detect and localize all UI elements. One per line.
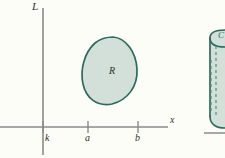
figure-svg — [0, 0, 225, 158]
cylinder-figure-group — [204, 30, 225, 133]
y-axis-label: L — [32, 0, 38, 12]
region-label-r: R — [109, 65, 115, 76]
tick-label-a: a — [85, 132, 90, 143]
figure-canvas: L x k a b R C — [0, 0, 225, 158]
tick-label-k: k — [45, 132, 49, 143]
x-axis-label: x — [170, 114, 174, 125]
tick-label-b: b — [135, 132, 140, 143]
cylinder-label-c: C — [218, 30, 224, 40]
